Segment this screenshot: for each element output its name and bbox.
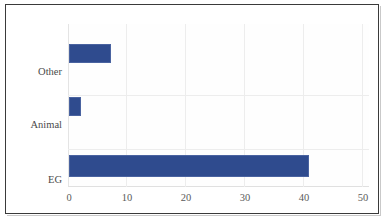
bar-other[interactable] <box>69 44 111 63</box>
y-tick-label-animal: Animal <box>31 119 63 131</box>
x-tick-label-20: 20 <box>171 191 201 205</box>
x-tick-label-50: 50 <box>348 191 378 205</box>
figure-frame-border: Other Animal EG 0 10 20 30 4 <box>5 4 379 214</box>
x-tick-label-30: 30 <box>230 191 260 205</box>
gridline-x-50 <box>362 24 363 187</box>
x-tick-label-40: 40 <box>289 191 319 205</box>
x-tick-label-10: 10 <box>112 191 142 205</box>
plot-area <box>68 24 369 187</box>
y-tick-label-eg: EG <box>48 174 62 186</box>
y-tick-label-other: Other <box>38 66 62 78</box>
chart-figure: Other Animal EG 0 10 20 30 4 <box>0 0 384 219</box>
bar-animal[interactable] <box>69 97 81 116</box>
y-axis-tick-labels: Other Animal EG <box>6 24 62 187</box>
bar-eg[interactable] <box>69 155 309 177</box>
gridline-row-divider-1 <box>68 95 369 96</box>
x-tick-label-0: 0 <box>54 191 84 205</box>
gridline-row-divider-2 <box>68 149 369 150</box>
x-axis-tick-labels: 0 10 20 30 40 50 <box>68 191 369 209</box>
x-axis-line <box>68 186 369 187</box>
